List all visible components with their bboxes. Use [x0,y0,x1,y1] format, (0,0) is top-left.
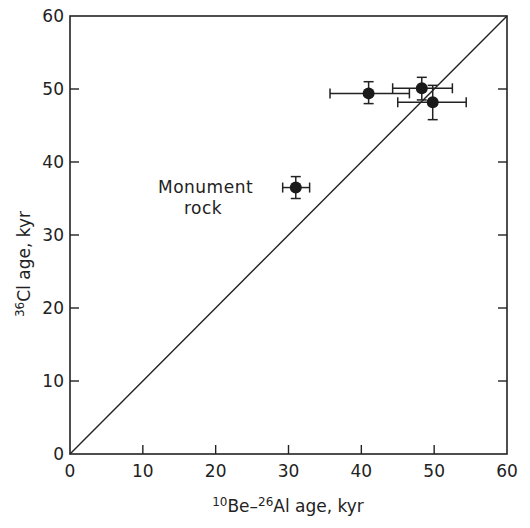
y-tick-label: 0 [53,444,64,464]
y-axis-label: 36Cl age, kyr [13,211,34,317]
y-tick-label: 30 [42,225,64,245]
axis-ticks [70,89,507,454]
data-points [283,77,467,198]
x-tick-label: 0 [65,461,76,481]
x-tick-label: 10 [132,461,154,481]
annotation-monument: Monument [158,177,253,197]
one-to-one-line [70,16,507,454]
point-marker [416,82,428,94]
y-tick-label: 60 [42,6,64,26]
x-axis-label: 10Be–26Al age, kyr [212,495,364,516]
y-tick-label: 50 [42,79,64,99]
point-marker [427,96,439,108]
point-marker [290,182,302,194]
point-marker [363,87,375,99]
y-tick-label: 10 [42,371,64,391]
data-point [283,177,310,199]
y-tick-label: 40 [42,152,64,172]
x-tick-label: 40 [351,461,373,481]
annotation-rock: rock [184,198,222,218]
x-tick-label: 20 [205,461,227,481]
x-tick-label: 60 [496,461,518,481]
x-tick-label: 50 [423,461,445,481]
scatter-chart: 01020304050600102030405060 Monument rock… [0,0,530,528]
y-tick-label: 20 [42,298,64,318]
x-tick-label: 30 [278,461,300,481]
